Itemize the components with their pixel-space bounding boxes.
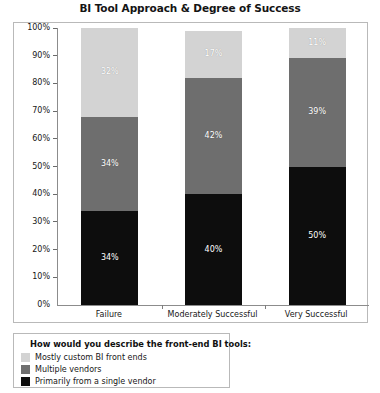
bar-segment[interactable]: 11% [289,28,346,58]
y-axis-tick: 10% [14,271,57,283]
bar-segment[interactable]: 32% [81,28,138,117]
bar-segment-label: 42% [205,132,223,140]
x-axis-label: Failure [57,308,161,322]
bar-segment-label: 34% [101,160,119,168]
y-axis-tick: 20% [14,244,57,256]
y-axis-tick: 100% [14,22,57,34]
chart-title: BI Tool Approach & Degree of Success [0,2,380,14]
bar-group[interactable]: 17%42%40% [162,28,266,305]
bar-segment-label: 34% [101,254,119,262]
bar-group[interactable]: 32%34%34% [58,28,162,305]
legend-swatch [21,353,30,362]
bar-segment[interactable]: 40% [185,194,242,305]
chart-plot-frame: 100%90%80%70%60%50%40%30%20%10%0% 32%34%… [13,22,368,323]
y-axis: 100%90%80%70%60%50%40%30%20%10%0% [14,23,57,324]
legend-swatch [21,377,30,386]
bar-segment[interactable]: 50% [289,167,346,306]
legend-item-label: Primarily from a single vendor [35,376,156,387]
legend-item[interactable]: Multiple vendors [21,364,223,375]
bar-segment-label: 11% [308,39,326,47]
y-axis-tick: 70% [14,105,57,117]
y-axis-tick: 50% [14,161,57,173]
y-axis-tick: 80% [14,77,57,89]
bar-segment-label: 32% [101,68,119,76]
bar-segment[interactable]: 34% [81,211,138,305]
x-axis-label: Very Successful [264,308,368,322]
bar-segment-label: 17% [205,50,223,58]
legend-title: How would you describe the front-end BI … [30,339,223,349]
bar-group[interactable]: 11%39%50% [265,28,369,305]
bar-segment-label: 40% [205,246,223,254]
chart-legend: How would you describe the front-end BI … [13,333,230,388]
legend-swatch [21,365,30,374]
bar-stack: 32%34%34% [81,28,138,305]
bar-segment-label: 50% [308,232,326,240]
bar-segment[interactable]: 42% [185,78,242,194]
x-axis-label: Moderately Successful [161,308,265,322]
legend-item-label: Mostly custom BI front ends [35,352,147,363]
y-axis-tick: 90% [14,50,57,62]
bar-stack: 11%39%50% [289,28,346,305]
bars-row: 32%34%34%17%42%40%11%39%50% [58,28,369,305]
bar-segment[interactable]: 39% [289,58,346,166]
legend-item[interactable]: Primarily from a single vendor [21,376,223,387]
y-axis-tick: 40% [14,188,57,200]
legend-items: Mostly custom BI front endsMultiple vend… [21,352,223,387]
plot-area: 32%34%34%17%42%40%11%39%50% [57,28,369,306]
bar-segment[interactable]: 34% [81,117,138,211]
bar-segment-label: 39% [308,108,326,116]
y-axis-tick: 30% [14,216,57,228]
x-axis: FailureModerately SuccessfulVery Success… [57,308,368,322]
y-axis-tick: 0% [14,299,57,311]
bar-segment[interactable]: 17% [185,31,242,78]
legend-item-label: Multiple vendors [35,364,101,375]
legend-item[interactable]: Mostly custom BI front ends [21,352,223,363]
bar-stack: 17%42%40% [185,28,242,305]
y-axis-tick: 60% [14,133,57,145]
